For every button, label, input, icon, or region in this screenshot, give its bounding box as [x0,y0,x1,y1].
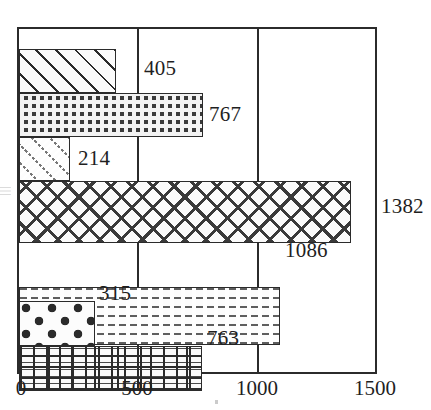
bar-7-value-label: 763 [207,328,239,349]
bar-7 [19,346,202,391]
bars-layer [19,29,375,372]
y-axis-label-clipped: ||| [0,185,12,196]
bar-6-value-label: 315 [99,283,131,304]
bar-3 [19,137,70,181]
bar-3-value-label: 214 [78,148,110,169]
bar-2 [19,93,203,137]
x-axis-label-clipped [215,400,218,404]
x-tick-500: 500 [121,378,153,399]
bar-4 [19,181,351,243]
bar-4-value-label: 1382 [381,196,424,217]
bar-6 [19,301,95,346]
x-tick-1000: 1000 [236,378,278,399]
x-tick-0: 0 [16,378,27,399]
bar-1 [19,49,116,93]
x-tick-1500: 1500 [354,378,396,399]
plot-area [17,27,377,374]
bar-5-value-label: 1086 [285,240,328,261]
bar-chart: ||| 405 767 214 1382 1086 315 763 0 500 … [0,0,431,410]
bar-1-value-label: 405 [144,58,176,79]
bar-2-value-label: 767 [209,104,241,125]
